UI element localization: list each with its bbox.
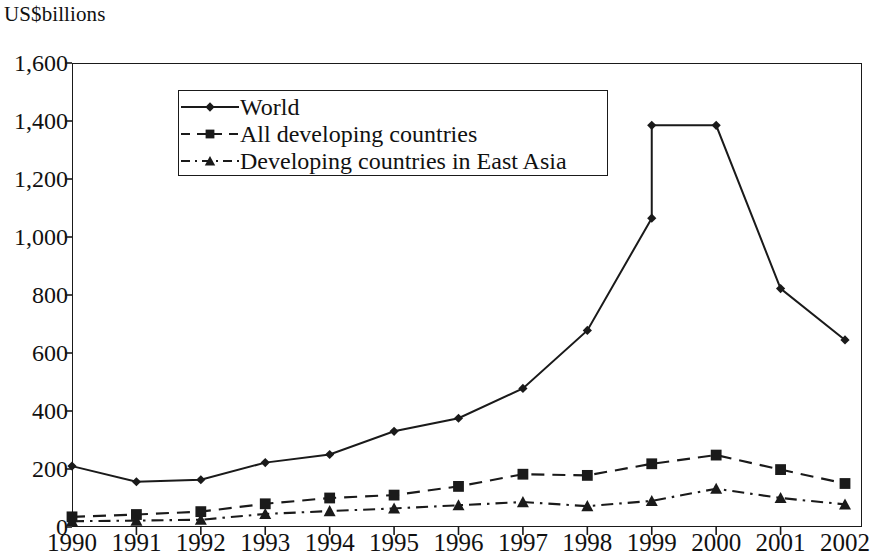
legend-item-all-developing-countries: All developing countries <box>179 120 607 147</box>
legend-label-developing-countries-east-asia: Developing countries in East Asia <box>240 148 567 174</box>
legend-label-all-developing-countries: All developing countries <box>240 121 477 147</box>
legend-sample-dashdot-triangle-icon <box>179 148 241 174</box>
legend-label-world: World <box>240 94 299 120</box>
legend-sample-solid-diamond-icon <box>179 94 241 120</box>
chart-legend: World All developing countries Developin… <box>178 90 608 176</box>
x-tick-label: 2002 <box>800 529 874 557</box>
legend-item-world: World <box>179 93 607 120</box>
legend-sample-dashed-square-icon <box>179 121 241 147</box>
legend-item-developing-countries-east-asia: Developing countries in East Asia <box>179 147 607 174</box>
